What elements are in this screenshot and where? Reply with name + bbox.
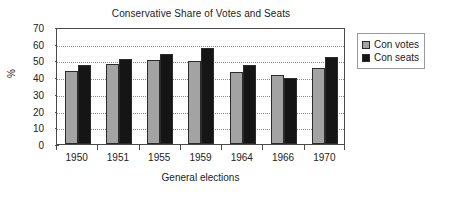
legend-swatch-icon — [362, 54, 370, 62]
x-axis-ticks — [56, 145, 345, 151]
x-axis: 1950195119551959196419661970 — [56, 152, 345, 166]
y-tick-label: 30 — [33, 89, 44, 100]
legend-item-con-votes: Con votes — [362, 38, 419, 51]
bar-1951-seats — [119, 59, 132, 144]
x-tick-label: 1950 — [66, 152, 88, 163]
bar-group — [263, 29, 304, 144]
bar-1970-seats — [325, 57, 338, 144]
bar-1955-seats — [160, 54, 173, 144]
y-tick-label: 0 — [38, 140, 44, 151]
bar-group — [305, 29, 346, 144]
bar-1970-votes — [312, 68, 325, 144]
x-tick-label: 1970 — [313, 152, 335, 163]
bar-group — [181, 29, 222, 144]
legend-label: Con seats — [374, 52, 419, 63]
y-tick-label: 40 — [33, 73, 44, 84]
chart-title: Conservative Share of Votes and Seats — [56, 8, 346, 19]
y-tick-label: 60 — [33, 39, 44, 50]
bar-1951-votes — [106, 64, 119, 144]
legend: Con votesCon seats — [357, 33, 425, 69]
x-tick-label: 1964 — [231, 152, 253, 163]
plot-area — [56, 28, 345, 145]
x-tick-label: 1959 — [189, 152, 211, 163]
x-tick-mark — [221, 145, 222, 150]
legend-label: Con votes — [374, 39, 419, 50]
x-tick-mark — [304, 145, 305, 150]
x-tick-label: 1955 — [148, 152, 170, 163]
x-tick-mark — [180, 145, 181, 150]
bar-chart: Conservative Share of Votes and Seats 01… — [0, 0, 450, 202]
bar-1966-seats — [284, 78, 297, 144]
bar-1950-votes — [65, 71, 78, 144]
y-axis-title: % — [6, 69, 17, 78]
bar-1964-votes — [230, 72, 243, 144]
x-axis-title: General elections — [56, 172, 345, 183]
y-tick-label: 50 — [33, 56, 44, 67]
bar-group — [140, 29, 181, 144]
bar-1959-seats — [201, 48, 214, 144]
x-tick-mark — [97, 145, 98, 150]
legend-item-con-seats: Con seats — [362, 51, 419, 64]
bar-1955-votes — [147, 60, 160, 144]
x-tick-mark — [56, 145, 57, 150]
y-axis: 010203040506070 — [22, 28, 50, 145]
bar-1950-seats — [78, 65, 91, 144]
bar-group — [57, 29, 98, 144]
bar-1966-votes — [271, 75, 284, 144]
bar-1964-seats — [243, 65, 256, 144]
y-tick-label: 70 — [33, 23, 44, 34]
x-tick-mark — [344, 145, 345, 150]
bar-1959-votes — [188, 61, 201, 144]
legend-swatch-icon — [362, 41, 370, 49]
bars-layer — [57, 29, 344, 144]
x-tick-mark — [262, 145, 263, 150]
bar-group — [222, 29, 263, 144]
x-tick-label: 1951 — [107, 152, 129, 163]
y-tick-label: 20 — [33, 106, 44, 117]
x-tick-label: 1966 — [272, 152, 294, 163]
bar-group — [98, 29, 139, 144]
x-tick-mark — [139, 145, 140, 150]
y-tick-label: 10 — [33, 123, 44, 134]
